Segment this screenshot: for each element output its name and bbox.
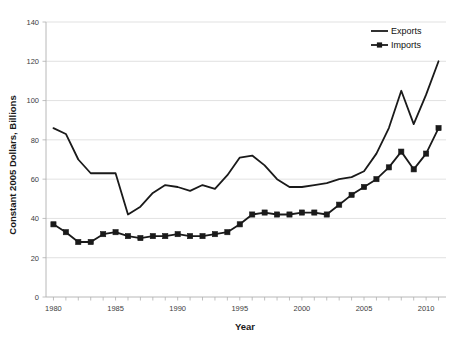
data-point-marker bbox=[138, 235, 143, 240]
data-point-marker bbox=[361, 184, 366, 189]
legend-label-imports: Imports bbox=[391, 40, 422, 50]
x-tick-label: 2005 bbox=[356, 304, 373, 313]
x-tick-label: 1995 bbox=[231, 304, 248, 313]
data-point-marker bbox=[324, 212, 329, 217]
y-tick-label: 100 bbox=[26, 96, 39, 105]
data-point-marker bbox=[262, 210, 267, 215]
legend-label-exports: Exports bbox=[391, 26, 422, 36]
y-tick-label: 120 bbox=[26, 57, 39, 66]
y-tick-labels: 020406080100120140 bbox=[26, 18, 46, 302]
chart-figure: 020406080100120140 198019851990199520002… bbox=[0, 0, 464, 349]
data-point-marker bbox=[212, 232, 217, 237]
data-point-marker bbox=[287, 212, 292, 217]
data-point-marker bbox=[175, 232, 180, 237]
data-point-marker bbox=[312, 210, 317, 215]
data-point-marker bbox=[150, 234, 155, 239]
x-tick-label: 2010 bbox=[418, 304, 435, 313]
x-tick-label: 1990 bbox=[169, 304, 186, 313]
data-point-marker bbox=[250, 212, 255, 217]
data-point-marker bbox=[163, 234, 168, 239]
x-tick-labels: 1980198519901995200020052010 bbox=[45, 304, 434, 313]
chart-legend: ExportsImports bbox=[371, 26, 422, 50]
data-point-marker bbox=[386, 165, 391, 170]
data-point-marker bbox=[88, 239, 93, 244]
x-minor-ticks bbox=[53, 297, 438, 301]
gridlines bbox=[46, 22, 446, 258]
x-axis-title: Year bbox=[235, 321, 255, 332]
data-point-marker bbox=[274, 212, 279, 217]
data-point-marker bbox=[101, 232, 106, 237]
y-tick-label: 60 bbox=[31, 175, 39, 184]
y-tick-label: 40 bbox=[31, 214, 39, 223]
y-tick-label: 0 bbox=[35, 293, 39, 302]
y-tick-label: 20 bbox=[31, 254, 39, 263]
data-point-marker bbox=[113, 230, 118, 235]
data-point-marker bbox=[200, 234, 205, 239]
axis-lines bbox=[46, 22, 446, 297]
data-point-marker bbox=[411, 167, 416, 172]
data-point-marker bbox=[187, 234, 192, 239]
data-series bbox=[51, 61, 441, 244]
y-tick-label: 80 bbox=[31, 136, 39, 145]
data-point-marker bbox=[299, 210, 304, 215]
data-point-marker bbox=[237, 222, 242, 227]
data-point-marker bbox=[125, 234, 130, 239]
data-point-marker bbox=[436, 125, 441, 130]
x-tick-label: 1980 bbox=[45, 304, 62, 313]
data-point-marker bbox=[63, 230, 68, 235]
x-tick-label: 2000 bbox=[294, 304, 311, 313]
data-point-marker bbox=[349, 192, 354, 197]
data-point-marker bbox=[424, 151, 429, 156]
x-tick-label: 1985 bbox=[107, 304, 124, 313]
line-chart: 020406080100120140 198019851990199520002… bbox=[0, 0, 464, 349]
data-point-marker bbox=[51, 222, 56, 227]
series-line-exports bbox=[53, 61, 438, 214]
data-point-marker bbox=[374, 177, 379, 182]
y-tick-label: 140 bbox=[26, 18, 39, 27]
data-point-marker bbox=[76, 239, 81, 244]
data-point-marker bbox=[225, 230, 230, 235]
legend-marker-square bbox=[377, 42, 382, 47]
y-axis-title: Constant 2005 Dollars, Billions bbox=[7, 95, 18, 234]
data-point-marker bbox=[399, 149, 404, 154]
data-point-marker bbox=[337, 202, 342, 207]
